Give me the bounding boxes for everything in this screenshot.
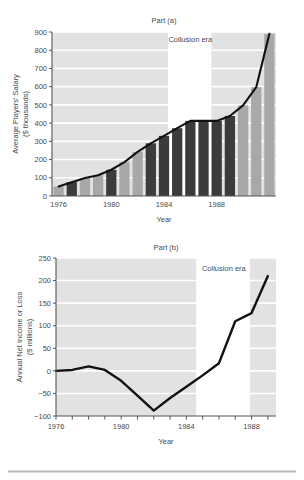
- y-axis-label: Annual Net Income or Loss($ millions): [15, 292, 34, 383]
- y-axis-label-line1: Annual Net Income or Loss: [15, 292, 24, 383]
- y-axis-ticks: 0100200300400500600700800900: [34, 28, 52, 201]
- x-tick-label: 1980: [113, 422, 130, 431]
- x-axis-ticks: 1976198019841988: [50, 200, 225, 209]
- y-axis-label-line1: Average Players' Salary: [11, 74, 20, 154]
- footer-rule: [0, 468, 304, 476]
- y-tick-label: 0: [43, 192, 47, 201]
- y-axis-label: Average Players' Salary($ thousands): [11, 74, 30, 154]
- x-axis-label: Year: [156, 215, 172, 224]
- y-tick-label: 50: [43, 344, 51, 353]
- y-axis-label-line2: ($ millions): [25, 318, 34, 355]
- x-tick-label: 1976: [48, 422, 65, 431]
- y-tick-label: 600: [34, 82, 47, 91]
- x-tick-label: 1984: [156, 200, 173, 209]
- y-tick-label: −50: [38, 389, 51, 398]
- x-tick-label: 1976: [50, 200, 67, 209]
- bar: [80, 178, 90, 196]
- y-tick-label: 100: [38, 321, 51, 330]
- chart-panel-part-a: Part (a)Collusion era0100200300400500600…: [0, 0, 304, 228]
- x-tick-label: 1984: [178, 422, 195, 431]
- y-tick-label: 250: [38, 254, 51, 263]
- y-tick-label: −100: [34, 412, 51, 421]
- y-tick-label: 800: [34, 46, 47, 55]
- x-tick-label: 1988: [208, 200, 225, 209]
- y-axis-label-line2: ($ thousands): [21, 91, 30, 137]
- bar: [159, 136, 169, 196]
- bar: [238, 105, 248, 196]
- bar: [185, 121, 195, 196]
- y-tick-label: 700: [34, 64, 47, 73]
- x-tick-label: 1980: [103, 200, 120, 209]
- chart-part-b: Part (b)Collusion era−100−50050100150200…: [0, 228, 304, 462]
- figure-container: Part (a)Collusion era0100200300400500600…: [0, 0, 304, 480]
- chart-title-part-a: Part (a): [151, 16, 177, 25]
- y-tick-label: 100: [34, 173, 47, 182]
- chart-title-part-b: Part (b): [153, 243, 179, 252]
- collusion-era-band: [196, 258, 250, 416]
- footer-rule-container: [0, 462, 304, 470]
- y-tick-label: 200: [38, 276, 51, 285]
- collusion-era-label: Collusion era: [168, 35, 213, 44]
- bar: [225, 116, 235, 196]
- era-band-rect: [196, 258, 250, 416]
- bar: [53, 187, 63, 196]
- y-tick-label: 200: [34, 155, 47, 164]
- bar: [198, 121, 208, 196]
- chart-panel-part-b: Part (b)Collusion era−100−50050100150200…: [0, 228, 304, 462]
- bar: [251, 87, 261, 196]
- x-tick-label: 1988: [243, 422, 260, 431]
- y-tick-label: 400: [34, 119, 47, 128]
- y-axis-ticks: −100−50050100150200250: [34, 254, 56, 421]
- y-tick-label: 900: [34, 28, 47, 37]
- x-axis-ticks: 1976198019841988: [48, 416, 268, 431]
- bar: [212, 121, 222, 196]
- y-tick-label: 300: [34, 137, 47, 146]
- bar: [172, 128, 182, 196]
- bar: [133, 152, 143, 196]
- bar: [264, 34, 274, 196]
- y-tick-label: 500: [34, 101, 47, 110]
- bar: [106, 170, 116, 196]
- y-tick-label: 0: [47, 367, 51, 376]
- bar: [146, 143, 156, 196]
- y-tick-label: 150: [38, 299, 51, 308]
- bar: [93, 175, 103, 196]
- x-axis-label: Year: [158, 437, 174, 446]
- bar: [119, 162, 129, 196]
- collusion-era-label: Collusion era: [202, 264, 247, 273]
- chart-part-a: Part (a)Collusion era0100200300400500600…: [0, 0, 304, 228]
